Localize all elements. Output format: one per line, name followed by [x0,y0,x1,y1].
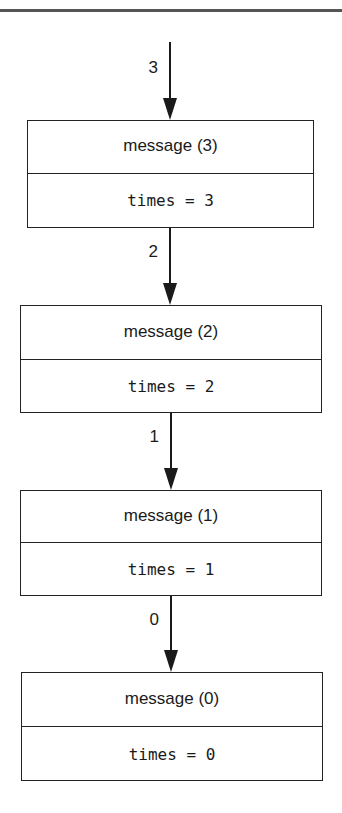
arrow-shaft [169,228,171,285]
frame-variable: times = 3 [28,191,313,210]
frame-variable: times = 0 [22,745,322,764]
top-rule-divider [0,9,342,12]
stack-frame: message (1) times = 1 [20,490,322,596]
frame-divider [22,726,322,727]
frame-variable: times = 1 [21,560,321,579]
arrow-label: 0 [139,610,159,630]
arrow-shaft [170,596,172,652]
stack-frame: message (0) times = 0 [21,672,323,781]
stack-frame: message (3) times = 3 [27,120,314,228]
stack-frame: message (2) times = 2 [20,305,322,413]
frame-title: message (3) [28,136,313,156]
arrow-head-icon [163,98,177,120]
frame-divider [21,542,321,543]
frame-title: message (1) [21,506,321,526]
arrow-head-icon [164,468,178,490]
arrow-label: 3 [138,58,158,78]
arrow-label: 1 [139,427,159,447]
arrow-shaft [170,413,172,470]
arrow-label: 2 [138,242,158,262]
frame-divider [28,173,313,174]
arrow-head-icon [163,283,177,305]
frame-divider [21,359,321,360]
frame-variable: times = 2 [21,377,321,396]
arrow-head-icon [164,650,178,672]
arrow-shaft [169,42,171,100]
frame-title: message (0) [22,689,322,709]
frame-title: message (2) [21,322,321,342]
